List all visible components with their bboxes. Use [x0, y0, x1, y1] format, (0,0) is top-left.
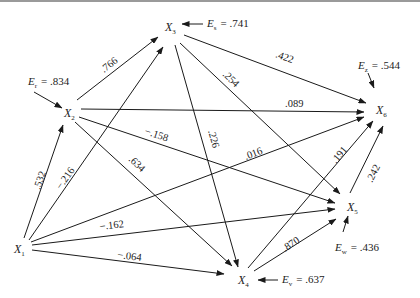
path-diagram: X1 X2 X3 X4 X5 X6 Er= .834 Es= .741 Ez= … [0, 0, 420, 298]
coef-x1-x2: .532 [31, 170, 47, 191]
coef-x2-x5: −.158 [143, 125, 170, 143]
coef-x2-x4: .634 [127, 153, 148, 174]
error-w: Ew= .436 [334, 241, 380, 256]
error-r: Er= .834 [27, 75, 70, 90]
node-x2: X2 [63, 106, 75, 122]
coef-x3-x6: .422 [274, 49, 295, 66]
error-s: Es= .741 [206, 17, 249, 32]
coef-x1-x3: −.216 [54, 165, 77, 191]
coef-x2-x3: .766 [98, 55, 119, 75]
coef-x1-x5: −.162 [99, 218, 124, 232]
error-arrow-w [343, 216, 348, 232]
error-arrow-z [368, 73, 374, 88]
edge-x3-x6 [184, 35, 366, 103]
node-x6: X6 [375, 103, 387, 119]
coef-x2-x6: .089 [285, 98, 303, 109]
error-arrow-r [34, 92, 62, 108]
coef-x5-x6: .242 [364, 163, 382, 184]
coef-x3-x4: .226 [206, 129, 222, 150]
coef-x3-x5: .254 [221, 69, 242, 90]
edge-x1-x6 [31, 117, 364, 242]
coef-x4-x6: .191 [329, 144, 349, 165]
edge-x3-x5 [180, 43, 340, 194]
error-z: Ez= .544 [357, 59, 401, 74]
edge-x2-x4 [75, 122, 232, 266]
edges [24, 24, 383, 280]
coef-x1-x6: .016 [243, 145, 264, 162]
edge-x2-x3 [77, 37, 158, 100]
node-x1: X1 [13, 242, 25, 258]
coef-x4-x5: .870 [280, 234, 301, 253]
edge-x2-x5 [79, 117, 335, 203]
node-x3: X3 [164, 20, 176, 36]
node-x5: X5 [346, 200, 358, 216]
error-v: Ev= .637 [281, 273, 325, 288]
edge-x5-x6 [350, 126, 383, 193]
edge-x2-x6 [81, 109, 364, 112]
node-x4: X4 [237, 273, 249, 289]
